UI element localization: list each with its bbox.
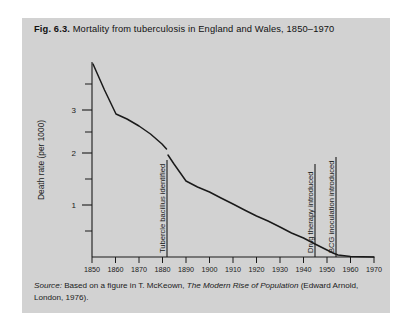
- x-tick-label-1860: 1860: [108, 265, 124, 274]
- annotation-label-tubercle-bacillus: Tubercle bacillus identified: [158, 164, 167, 253]
- mortality-curve-segment-2: [168, 155, 374, 257]
- figure-title-text: Mortality from tuberculosis in England a…: [73, 24, 335, 34]
- source-book-title: The Modern Rise of Population: [187, 281, 299, 290]
- source-text-part1: Based on a figure in T. McKeown,: [62, 281, 187, 290]
- y-tick-label-3: 3: [72, 106, 77, 115]
- annotation-label-bcg-inoculation: BCG inoculation introduced: [327, 161, 336, 253]
- y-axis-major-ticks: [82, 110, 92, 205]
- x-axis-tick-labels: 1850 1860 1870 1880 1890 1900 1910 1920 …: [84, 265, 382, 274]
- y-axis-minor-ticks: [85, 84, 92, 231]
- y-axis-title: Death rate (per 1000): [36, 120, 46, 200]
- y-tick-label-1: 1: [72, 201, 77, 210]
- x-tick-label-1910: 1910: [225, 265, 241, 274]
- tuberculosis-mortality-line-chart: Death rate (per 1000) 3 2 1: [22, 40, 390, 278]
- x-tick-label-1890: 1890: [178, 265, 194, 274]
- x-tick-label-1970: 1970: [366, 265, 382, 274]
- x-tick-label-1870: 1870: [131, 265, 147, 274]
- source-label: Source:: [34, 281, 62, 290]
- figure-number: Fig. 6.3.: [34, 24, 70, 34]
- source-note: Source: Based on a figure in T. McKeown,…: [34, 280, 376, 303]
- x-tick-label-1900: 1900: [202, 265, 218, 274]
- x-tick-label-1880: 1880: [155, 265, 171, 274]
- x-tick-label-1930: 1930: [272, 265, 288, 274]
- figure-panel: Fig. 6.3. Mortality from tuberculosis in…: [22, 18, 390, 313]
- x-axis-ticks: [92, 257, 374, 263]
- mortality-curve-segment-1: [93, 64, 167, 149]
- y-tick-label-2: 2: [72, 149, 77, 158]
- x-tick-label-1850: 1850: [84, 265, 100, 274]
- chart-plot-area: Death rate (per 1000) 3 2 1: [22, 40, 390, 278]
- x-tick-label-1960: 1960: [343, 265, 359, 274]
- x-tick-label-1940: 1940: [296, 265, 312, 274]
- figure-title: Fig. 6.3. Mortality from tuberculosis in…: [34, 24, 380, 34]
- x-tick-label-1920: 1920: [249, 265, 265, 274]
- x-tick-label-1950: 1950: [319, 265, 335, 274]
